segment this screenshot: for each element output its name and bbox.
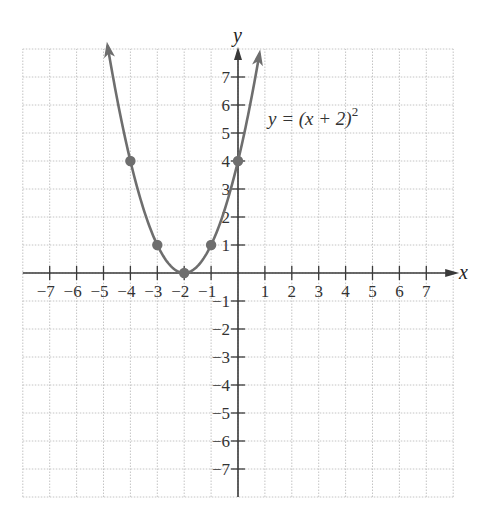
parabola-graph: −7−6−5−4−3−2−11234567−7−6−5−4−3−2−112345… (0, 0, 484, 518)
y-tick-label: 1 (222, 236, 231, 255)
x-tick-label: 1 (261, 282, 270, 301)
x-tick-label: 7 (422, 282, 431, 301)
y-tick-label: −3 (212, 348, 230, 367)
x-tick-label: 2 (288, 282, 297, 301)
data-point (233, 156, 243, 166)
y-tick-label: −6 (212, 432, 230, 451)
y-tick-label: −5 (212, 404, 230, 423)
y-tick-label: −2 (212, 320, 230, 339)
data-point (125, 156, 135, 166)
equation-text: y = (x + 2) (266, 108, 352, 130)
y-tick-label: 7 (222, 68, 231, 87)
x-tick-label: −3 (144, 282, 162, 301)
x-tick-label: −4 (117, 282, 136, 301)
x-tick-label: −6 (64, 282, 82, 301)
y-tick-label: 6 (222, 96, 231, 115)
data-point (206, 240, 216, 250)
x-tick-label: −5 (90, 282, 108, 301)
x-tick-label: 6 (395, 282, 404, 301)
y-tick-label: −7 (212, 460, 231, 479)
data-point (152, 240, 162, 250)
y-tick-label: 5 (222, 124, 231, 143)
equation-label: y = (x + 2)2 (266, 104, 358, 130)
x-tick-label: 4 (341, 282, 350, 301)
y-axis-label: y (231, 24, 242, 47)
x-tick-label: −2 (171, 282, 189, 301)
y-tick-label: −1 (212, 292, 230, 311)
equation-exponent: 2 (352, 104, 359, 119)
axes (23, 47, 459, 497)
x-tick-label: −7 (37, 282, 56, 301)
x-axis-label: x (458, 261, 468, 283)
y-tick-label: 4 (222, 152, 231, 171)
x-tick-label: 5 (368, 282, 377, 301)
y-axis-arrow-icon (234, 47, 242, 60)
data-point (179, 268, 189, 278)
x-axis-arrow-icon (445, 269, 459, 277)
y-tick-label: −4 (212, 376, 231, 395)
x-tick-label: 3 (314, 282, 323, 301)
